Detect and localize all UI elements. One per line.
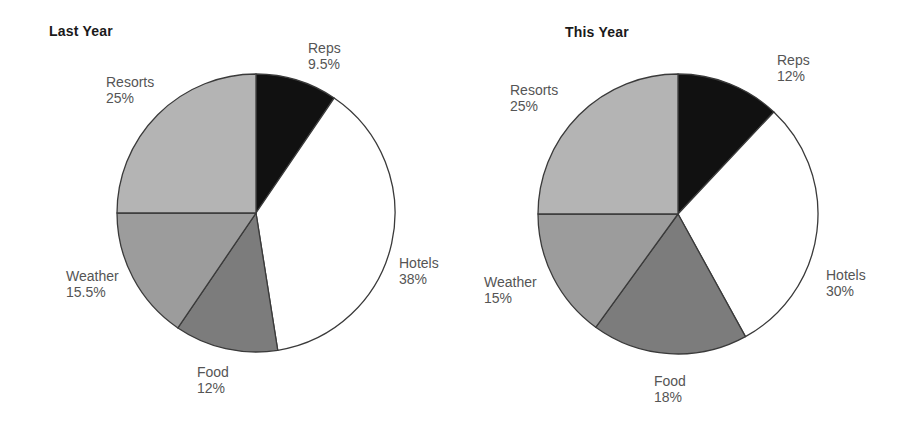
pie-panel-last-year: Last Year Reps9.5% Resorts25% Hotels38% … xyxy=(0,0,454,425)
slice-label-weather: Weather15% xyxy=(484,274,537,306)
slice-label-food: Food18% xyxy=(654,373,686,405)
slice-label-resorts: Resorts25% xyxy=(106,74,154,106)
slice-label-resorts: Resorts25% xyxy=(510,82,558,114)
pie-chart-this-year xyxy=(454,0,908,425)
slice-label-hotels: Hotels38% xyxy=(399,255,439,287)
pie-chart-last-year xyxy=(0,0,454,425)
pie-panel-this-year: This Year Reps12% Resorts25% Hotels30% W… xyxy=(454,0,908,425)
slice-label-reps: Reps12% xyxy=(777,52,810,84)
slice-label-food: Food12% xyxy=(197,364,229,396)
slice-label-hotels: Hotels30% xyxy=(826,267,866,299)
pie-slice-resorts xyxy=(538,74,678,214)
slice-label-weather: Weather15.5% xyxy=(66,268,119,300)
slice-label-reps: Reps9.5% xyxy=(308,40,341,72)
